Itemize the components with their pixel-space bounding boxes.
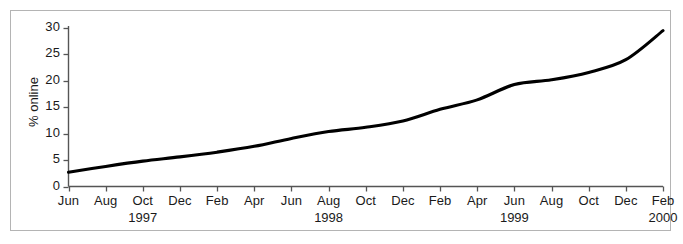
x-axis-year-label: 2000 xyxy=(635,210,683,225)
x-axis-year-label: 1999 xyxy=(486,210,542,225)
x-tick-label: Feb xyxy=(638,193,683,208)
y-tick-label: 10 xyxy=(30,125,60,140)
chart-figure: % online 051015202530 JunAugOctDecFebApr… xyxy=(0,0,683,244)
x-axis-year-label: 1998 xyxy=(301,210,357,225)
x-axis-ticks xyxy=(70,187,664,192)
data-series-line xyxy=(69,31,664,173)
y-tick-label: 0 xyxy=(30,178,60,193)
x-axis-year-label: 1997 xyxy=(115,210,171,225)
y-tick-label: 30 xyxy=(30,19,60,34)
y-tick-label: 20 xyxy=(30,72,60,87)
y-axis-ticks xyxy=(64,29,69,188)
y-tick-label: 15 xyxy=(30,98,60,113)
y-tick-label: 5 xyxy=(30,151,60,166)
y-tick-label: 25 xyxy=(30,45,60,60)
axis-lines xyxy=(69,26,664,187)
